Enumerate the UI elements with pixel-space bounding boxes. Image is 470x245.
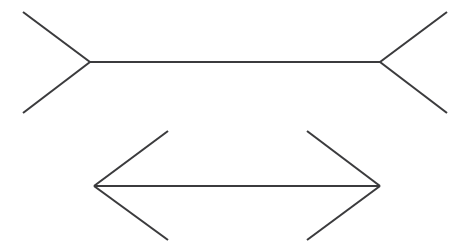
figure-background [0,0,470,245]
muller-lyer-figure [0,0,470,245]
figure-svg-canvas [0,0,470,245]
